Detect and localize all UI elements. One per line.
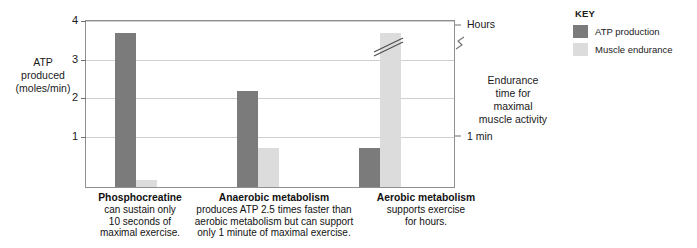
legend-swatch-muscle-endurance	[573, 43, 588, 56]
legend-label-muscle-endurance: Muscle endurance	[595, 44, 673, 55]
bar-atp-aerobic	[359, 148, 380, 187]
legend-label-atp-production: ATP production	[595, 26, 660, 37]
bar-endurance-anaerobic	[258, 148, 279, 187]
y2-axis-title-line-3: maximal	[463, 100, 563, 113]
y2-tick-label-1min: 1 min	[455, 130, 493, 141]
legend-key: KEY ATP production Muscle endurance	[573, 8, 691, 76]
group-title-anaerobic: Anaerobic metabolism	[176, 192, 372, 204]
group-caption-aerobic: Aerobic metabolism supports exercise for…	[356, 192, 496, 227]
y2-axis-title-line-4: muscle activity	[463, 113, 563, 126]
group-caption-anaerobic: Anaerobic metabolism produces ATP 2.5 ti…	[176, 192, 372, 239]
bar-endurance-phosphocreatine	[136, 180, 157, 187]
group-caption-line-2: for hours.	[356, 216, 496, 228]
gridline-4	[86, 21, 454, 22]
bar-atp-phosphocreatine	[115, 33, 136, 187]
group-caption-line-1: produces ATP 2.5 times faster than	[176, 204, 372, 216]
legend-item-atp-production: ATP production	[573, 25, 691, 38]
y-tick-mark-4	[81, 21, 86, 22]
bar-chart-figure: ATP produced (moles/min) 4 3 2 1	[0, 0, 697, 248]
y-tick-label-2: 2	[60, 92, 78, 103]
y-axis-tick-labels: 4 3 2 1	[60, 20, 78, 188]
group-caption-line-2: aerobic metabolism but can support	[176, 216, 372, 228]
y2-axis: Hours 1 min Endurance time for maximal m…	[455, 20, 565, 188]
y2-tick-label-hours: Hours	[455, 19, 495, 30]
bar-atp-anaerobic	[237, 91, 258, 188]
legend-swatch-atp-production	[573, 25, 588, 38]
group-title-aerobic: Aerobic metabolism	[356, 192, 496, 204]
y-tick-label-1: 1	[60, 130, 78, 141]
y-tick-label-3: 3	[60, 53, 78, 64]
y2-axis-title: Endurance time for maximal muscle activi…	[463, 74, 563, 126]
y2-axis-title-line-2: time for	[463, 87, 563, 100]
y-tick-mark-2	[81, 98, 86, 99]
legend-item-muscle-endurance: Muscle endurance	[573, 43, 691, 56]
y-tick-mark-3	[81, 60, 86, 61]
legend-title: KEY	[575, 8, 691, 19]
y-tick-label-4: 4	[60, 15, 78, 26]
group-caption-line-1: supports exercise	[356, 204, 496, 216]
y-tick-mark-1	[81, 137, 86, 138]
group-caption-line-3: only 1 minute of maximal exercise.	[176, 227, 372, 239]
plot-area	[85, 20, 455, 188]
y2-axis-title-line-1: Endurance	[463, 74, 563, 87]
bar-endurance-aerobic	[380, 33, 401, 187]
